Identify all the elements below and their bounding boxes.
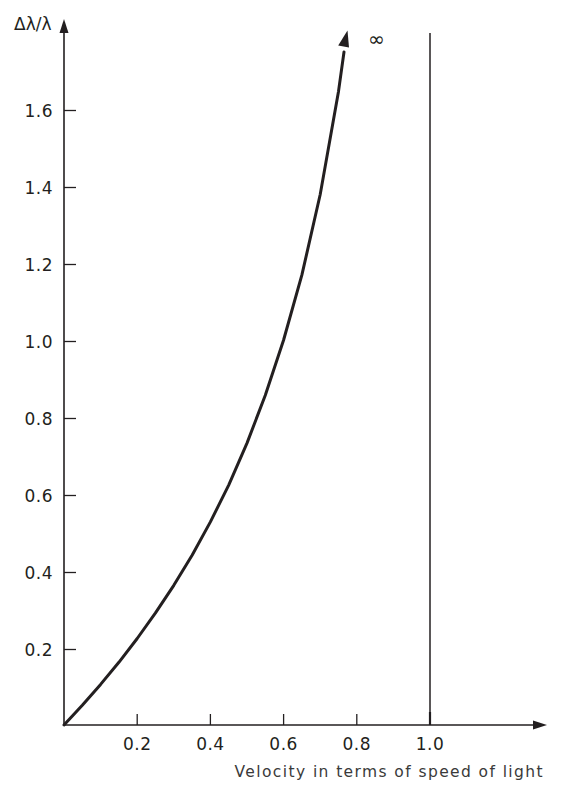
x-tick-label-1.0: 1.0 bbox=[416, 734, 445, 754]
x-tick-label-0.2: 0.2 bbox=[123, 734, 152, 754]
x-tick-label-0.6: 0.6 bbox=[269, 734, 298, 754]
y-tick-label-1.6: 1.6 bbox=[24, 101, 53, 121]
y-tick-label-1.4: 1.4 bbox=[24, 178, 53, 198]
y-axis-arrow-icon bbox=[60, 19, 69, 33]
y-tick-label-1.0: 1.0 bbox=[24, 332, 53, 352]
y-tick-label-0.6: 0.6 bbox=[24, 486, 53, 506]
y-tick-label-0.8: 0.8 bbox=[24, 409, 53, 429]
doppler-shift-plot: Δλ/λ 0.2 0.4 0.6 0.8 1.0 1.2 1.4 1.6 0.2 bbox=[0, 0, 564, 793]
chart-figure: Δλ/λ 0.2 0.4 0.6 0.8 1.0 1.2 1.4 1.6 0.2 bbox=[0, 0, 564, 793]
curve-arrow-icon bbox=[338, 31, 349, 48]
doppler-curve bbox=[64, 52, 344, 725]
x-axis-caption: Velocity in terms of speed of light bbox=[235, 763, 544, 781]
x-tick-label-0.4: 0.4 bbox=[196, 734, 225, 754]
y-tick-label-0.2: 0.2 bbox=[24, 640, 53, 660]
y-axis-title: Δλ/λ bbox=[14, 14, 51, 34]
x-axis-arrow-icon bbox=[533, 721, 547, 730]
x-tick-label-0.8: 0.8 bbox=[343, 734, 372, 754]
y-tick-label-0.4: 0.4 bbox=[24, 563, 53, 583]
y-tick-label-1.2: 1.2 bbox=[24, 255, 53, 275]
infinity-icon: ∞ bbox=[368, 27, 385, 51]
